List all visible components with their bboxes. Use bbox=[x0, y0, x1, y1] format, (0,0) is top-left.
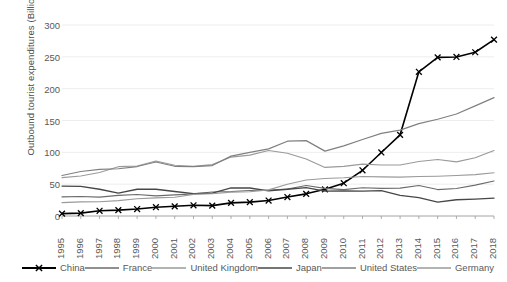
legend-item-japan[interactable]: Japan bbox=[258, 263, 322, 273]
legend-label: Japan bbox=[296, 263, 322, 273]
legend-label: United States bbox=[360, 263, 417, 273]
series-line-france bbox=[62, 181, 494, 197]
legend-item-china[interactable]: China bbox=[22, 263, 85, 273]
x-axis-tick-1995: 1995 bbox=[55, 238, 66, 259]
line-chart: Outbound tourist expenditures (Billion, … bbox=[0, 0, 507, 282]
legend-label: China bbox=[60, 263, 85, 273]
chart-legend: ChinaFranceUnited KingdomJapanUnited Sta… bbox=[22, 258, 492, 278]
legend-swatch-icon bbox=[322, 263, 356, 273]
x-axis-tick-labels: 1995199619971998199920002001200220032004… bbox=[62, 219, 494, 259]
y-axis-tick-100: 100 bbox=[44, 147, 60, 158]
x-axis-tick-2016: 2016 bbox=[449, 238, 460, 259]
x-axis-tick-2000: 2000 bbox=[149, 238, 160, 259]
plot-area bbox=[62, 25, 494, 216]
x-axis-tick-2003: 2003 bbox=[205, 238, 216, 259]
legend-item-united-states[interactable]: United States bbox=[322, 263, 417, 273]
y-axis-tick-50: 50 bbox=[49, 179, 60, 190]
x-axis-tick-1996: 1996 bbox=[74, 238, 85, 259]
x-axis-tick-1999: 1999 bbox=[130, 238, 141, 259]
x-axis-tick-1998: 1998 bbox=[111, 238, 122, 259]
series-line-united-states bbox=[62, 98, 494, 176]
x-axis-tick-2002: 2002 bbox=[186, 238, 197, 259]
y-axis-tick-300: 300 bbox=[44, 20, 60, 31]
x-axis-tick-2007: 2007 bbox=[280, 238, 291, 259]
legend-swatch-icon bbox=[417, 263, 451, 273]
plot-svg bbox=[62, 25, 494, 216]
x-axis-tick-2009: 2009 bbox=[318, 238, 329, 259]
x-axis-tick-2008: 2008 bbox=[299, 238, 310, 259]
marker-china-2011 bbox=[360, 167, 366, 173]
x-axis-tick-2006: 2006 bbox=[262, 238, 273, 259]
x-axis-tick-2010: 2010 bbox=[337, 238, 348, 259]
legend-swatch-icon bbox=[85, 263, 119, 273]
x-axis-tick-2015: 2015 bbox=[431, 238, 442, 259]
x-axis-tick-2011: 2011 bbox=[356, 239, 367, 259]
x-axis-tick-2001: 2001 bbox=[168, 238, 179, 259]
y-axis-tick-150: 150 bbox=[44, 115, 60, 126]
x-axis-tick-1997: 1997 bbox=[93, 238, 104, 259]
x-axis-tick-2005: 2005 bbox=[243, 238, 254, 259]
marker-china-2018 bbox=[491, 37, 497, 43]
y-axis-tick-200: 200 bbox=[44, 83, 60, 94]
legend-label: Germany bbox=[455, 263, 494, 273]
legend-item-france[interactable]: France bbox=[85, 263, 153, 273]
series-line-united-kingdom bbox=[62, 150, 494, 177]
x-axis-tick-2004: 2004 bbox=[224, 238, 235, 259]
legend-item-germany[interactable]: Germany bbox=[417, 263, 494, 273]
legend-swatch-icon bbox=[258, 263, 292, 273]
legend-label: United Kingdom bbox=[190, 263, 258, 273]
x-axis-tick-2017: 2017 bbox=[468, 238, 479, 259]
legend-swatch-icon bbox=[152, 263, 186, 273]
y-axis-tick-250: 250 bbox=[44, 51, 60, 62]
x-axis-tick-2013: 2013 bbox=[393, 238, 404, 259]
x-axis-tick-2014: 2014 bbox=[412, 238, 423, 259]
legend-label: France bbox=[123, 263, 153, 273]
legend-item-united-kingdom[interactable]: United Kingdom bbox=[152, 263, 258, 273]
x-axis-tick-2018: 2018 bbox=[487, 238, 498, 259]
legend-swatch-icon bbox=[22, 263, 56, 273]
x-axis-tick-2012: 2012 bbox=[374, 238, 385, 259]
